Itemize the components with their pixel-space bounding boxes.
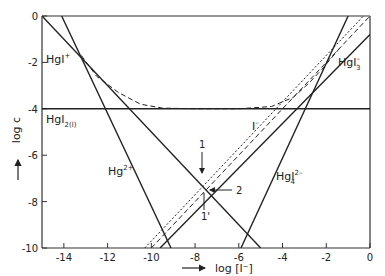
marker-2: 2	[210, 185, 242, 196]
y-tick-label: -8	[28, 197, 38, 208]
series-line	[42, 16, 261, 248]
label-hgi-plus: HgI+	[46, 52, 71, 66]
marker-1: 1	[199, 139, 205, 173]
x-tick-label: -10	[143, 252, 159, 263]
label-hg2-plus: Hg2+	[108, 164, 134, 178]
y-tick-label: -10	[22, 243, 38, 254]
x-tick-label: -12	[99, 252, 115, 263]
svg-text:1': 1'	[201, 211, 210, 222]
chart: -14-12-10-8-6-4-200-2-4-6-8-10 log c log…	[0, 0, 385, 276]
axis-ticks: -14-12-10-8-6-4-200-2-4-6-8-10	[22, 11, 374, 263]
label-hgi4-2minus: HgI2–4	[276, 169, 303, 186]
label-hgi3-minus: HgI–3	[338, 55, 361, 72]
svg-text:log [I⁻]: log [I⁻]	[215, 262, 253, 275]
marker-1-prime: 1'	[201, 193, 210, 222]
x-tick-label: -8	[190, 252, 200, 263]
series-line	[62, 16, 171, 248]
y-tick-label: -4	[28, 104, 38, 115]
svg-text:2: 2	[236, 185, 242, 196]
x-tick-label: -4	[278, 252, 288, 263]
series-line	[241, 16, 348, 248]
x-tick-label: -14	[56, 252, 72, 263]
y-tick-label: -6	[28, 150, 38, 161]
x-tick-label: 0	[367, 252, 373, 263]
svg-text:1: 1	[199, 139, 205, 150]
svg-text:log c: log c	[10, 117, 23, 143]
y-tick-label: 0	[32, 11, 38, 22]
x-tick-label: -2	[321, 252, 331, 263]
x-axis-label: log [I⁻]	[182, 262, 253, 275]
label-hgi2-l: HgI2(l)	[46, 113, 77, 129]
y-tick-label: -2	[28, 57, 38, 68]
y-axis-label: log c	[10, 117, 23, 180]
